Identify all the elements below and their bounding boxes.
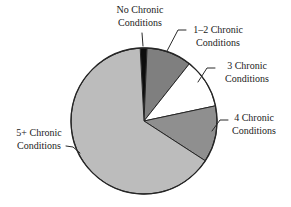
slice-label-line: Conditions: [16, 140, 61, 153]
leader-line-no-chronic: [142, 33, 143, 46]
slice-label-3-chronic: 3 Chronic Conditions: [225, 60, 269, 85]
slice-label-line: 4 Chronic: [232, 112, 276, 125]
pie-figure: No Chronic Conditions 1–2 Chronic Condit…: [0, 0, 291, 207]
slice-label-line: Conditions: [232, 125, 276, 138]
slice-label-line: Conditions: [193, 37, 243, 50]
slice-label-line: 5+ Chronic: [16, 127, 61, 140]
slice-label-line: Conditions: [117, 17, 164, 30]
slice-label-no-chronic: No Chronic Conditions: [117, 4, 164, 29]
slice-label-line: Conditions: [225, 73, 269, 86]
slice-label-1-2-chronic: 1–2 Chronic Conditions: [193, 24, 243, 49]
pie-slices: [71, 48, 217, 194]
slice-label-4-chronic: 4 Chronic Conditions: [232, 112, 276, 137]
slice-label-line: 3 Chronic: [225, 60, 269, 73]
pie-chart: [0, 0, 291, 207]
leader-line-1-2-chronic: [167, 30, 186, 51]
slice-label-line: 1–2 Chronic: [193, 24, 243, 37]
slice-label-line: No Chronic: [117, 4, 164, 17]
slice-label-5-plus-chronic: 5+ Chronic Conditions: [16, 127, 61, 152]
